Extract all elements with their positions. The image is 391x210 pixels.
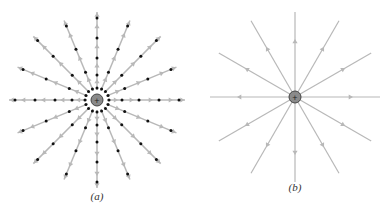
- field-point-dot: [91, 110, 94, 113]
- arrow-head: [94, 152, 99, 156]
- field-point-dot: [84, 99, 87, 102]
- field-point-dot: [71, 99, 74, 102]
- field-point-dot: [71, 74, 74, 77]
- field-point-dot: [65, 25, 68, 28]
- field-point-dot: [84, 71, 87, 74]
- field-point-dot: [123, 87, 126, 90]
- field-point-dot: [169, 129, 172, 132]
- field-line: [295, 21, 339, 97]
- field-point-dot: [117, 149, 120, 152]
- field-point-dot: [117, 48, 120, 51]
- field-point-dot: [36, 158, 39, 161]
- field-point-dot: [54, 99, 57, 102]
- field-point-dot: [107, 126, 110, 129]
- field-point-dot: [84, 94, 87, 97]
- field-point-dot: [126, 25, 129, 28]
- field-point-dot: [126, 172, 129, 175]
- field-point-dot: [96, 74, 99, 77]
- arrow-head: [292, 151, 297, 155]
- field-point-dot: [96, 141, 99, 144]
- field-point-dot: [158, 99, 161, 102]
- arrow-head: [41, 97, 45, 102]
- field-point-dot: [45, 120, 48, 123]
- plus-sign: +: [292, 93, 297, 103]
- field-point-dot: [34, 99, 37, 102]
- arrow-head: [292, 39, 297, 43]
- field-point-dot: [169, 68, 172, 71]
- field-point-dot: [68, 87, 71, 90]
- arrow-head: [94, 133, 99, 137]
- field-point-dot: [155, 39, 158, 42]
- field-point-dot: [96, 111, 99, 114]
- field-point-dot: [100, 110, 103, 113]
- arrow-head: [94, 24, 99, 28]
- arrow-head: [94, 63, 99, 67]
- field-point-dot: [104, 107, 107, 110]
- field-line: [219, 53, 295, 97]
- field-point-dot: [14, 99, 17, 102]
- field-point-dot: [96, 57, 99, 60]
- field-point-dot: [121, 99, 124, 102]
- field-point-dot: [96, 17, 99, 20]
- field-point-dot: [52, 55, 55, 58]
- arrow-head: [114, 97, 118, 102]
- field-point-dot: [138, 99, 141, 102]
- field-point-dot: [146, 77, 149, 80]
- field-line: [219, 97, 295, 141]
- field-point-dot: [65, 172, 68, 175]
- field-point-dot: [146, 120, 149, 123]
- field-point-dot: [96, 124, 99, 127]
- arrow-head: [21, 97, 25, 102]
- field-point-dot: [107, 103, 110, 106]
- arrow-head: [349, 94, 353, 99]
- field-point-dot: [107, 94, 110, 97]
- arrow-head: [94, 117, 99, 121]
- field-point-dot: [100, 87, 103, 90]
- caption-a: (a): [91, 190, 104, 202]
- field-point-dot: [45, 77, 48, 80]
- field-point-dot: [139, 55, 142, 58]
- field-point-dot: [87, 90, 90, 93]
- field-point-dot: [178, 99, 181, 102]
- arrow-head: [237, 94, 241, 99]
- arrow-head: [130, 97, 134, 102]
- field-point-dot: [107, 71, 110, 74]
- plus-sign: +: [94, 96, 99, 106]
- field-point-dot: [139, 142, 142, 145]
- field-point-dot: [22, 129, 25, 132]
- field-line: [251, 97, 295, 173]
- field-point-dot: [74, 48, 77, 51]
- field-point-dot: [68, 110, 71, 113]
- field-point-dot: [74, 149, 77, 152]
- arrow-head: [94, 183, 99, 187]
- arrow-head: [9, 97, 13, 102]
- field-point-dot: [120, 123, 123, 126]
- field-point-dot: [52, 142, 55, 145]
- field-point-dot: [96, 181, 99, 184]
- arrow-head: [169, 97, 173, 102]
- arrow-head: [94, 172, 99, 176]
- field-point-dot: [96, 87, 99, 90]
- field-line: [295, 97, 371, 141]
- field-point-dot: [84, 103, 87, 106]
- field-point-dot: [108, 99, 111, 102]
- arrow-head: [60, 97, 64, 102]
- arrow-head: [94, 79, 99, 83]
- caption-b: (b): [289, 181, 302, 193]
- arrow-head: [76, 97, 80, 102]
- field-point-dot: [91, 87, 94, 90]
- field-point-dot: [84, 126, 87, 129]
- field-point-dot: [96, 161, 99, 164]
- field-point-dot: [87, 107, 90, 110]
- field-point-dot: [123, 110, 126, 113]
- field-point-dot: [120, 74, 123, 77]
- field-line: [295, 53, 371, 97]
- field-line: [295, 97, 339, 173]
- arrow-head: [94, 12, 99, 16]
- field-point-dot: [36, 39, 39, 42]
- arrow-head: [180, 97, 184, 102]
- field-line: [251, 21, 295, 97]
- field-point-dot: [155, 158, 158, 161]
- arrow-head: [94, 44, 99, 48]
- field-point-dot: [22, 68, 25, 71]
